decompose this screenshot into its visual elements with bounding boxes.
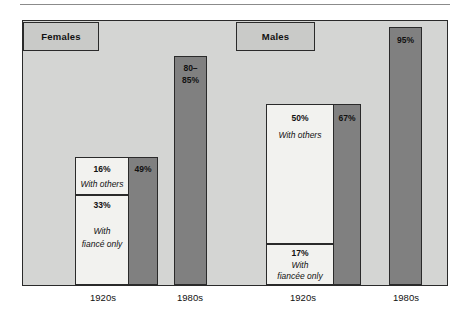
bar-value-females-1920s-total: 49% bbox=[129, 164, 157, 175]
bar-note-males-1920s-fiancee-line2: fiancée only bbox=[267, 271, 333, 282]
bar-males-1920s-total[interactable]: 67% bbox=[333, 104, 361, 285]
x-axis-label-females-1980s: 1980s bbox=[135, 292, 245, 303]
x-axis-label-males-1980s: 1980s bbox=[351, 292, 461, 303]
bar-value-females-1920s-others: 16% bbox=[76, 164, 128, 175]
group-label-females: Females bbox=[41, 31, 80, 42]
bar-females-1980s[interactable]: 80– 85% bbox=[174, 56, 207, 285]
bar-value-females-1920s-fiance: 33% bbox=[76, 200, 128, 211]
segment-divider-females-1920s bbox=[76, 194, 128, 196]
bar-value-males-1920s-fiancee: 17% bbox=[267, 248, 333, 259]
bar-note-females-1920s-fiance-line1: With bbox=[76, 226, 128, 237]
bar-females-1920s-total[interactable]: 49% bbox=[128, 157, 158, 285]
segment-divider-males-1920s bbox=[267, 243, 333, 245]
x-axis-label-males-1920s: 1920s bbox=[248, 292, 358, 303]
group-title-box-males: Males bbox=[236, 22, 315, 51]
bar-males-1980s[interactable]: 95% bbox=[389, 27, 422, 285]
bar-note-males-1920s-fiancee-line1: With bbox=[267, 260, 333, 271]
bar-value-females-1980s-line1: 80– bbox=[175, 63, 206, 74]
group-title-box-females: Females bbox=[23, 22, 99, 51]
top-rule bbox=[20, 4, 450, 5]
bar-note-males-1920s-others: With others bbox=[267, 130, 333, 141]
bar-males-1920s-stacked[interactable]: 50% With others 17% With fiancée only bbox=[266, 104, 334, 285]
bar-females-1920s-stacked[interactable]: 16% With others 33% With fiancé only bbox=[75, 157, 129, 285]
bar-value-males-1920s-others: 50% bbox=[267, 113, 333, 124]
bar-value-males-1980s: 95% bbox=[390, 35, 421, 46]
bar-note-females-1920s-fiance-line2: fiancé only bbox=[76, 239, 128, 250]
chart-panel: Females 16% With others 33% With fiancé … bbox=[22, 20, 448, 286]
group-label-males: Males bbox=[262, 31, 289, 42]
bar-value-females-1980s-line2: 85% bbox=[175, 75, 206, 86]
bar-value-males-1920s-total: 67% bbox=[334, 113, 360, 124]
bar-note-females-1920s-others: With others bbox=[76, 179, 128, 190]
